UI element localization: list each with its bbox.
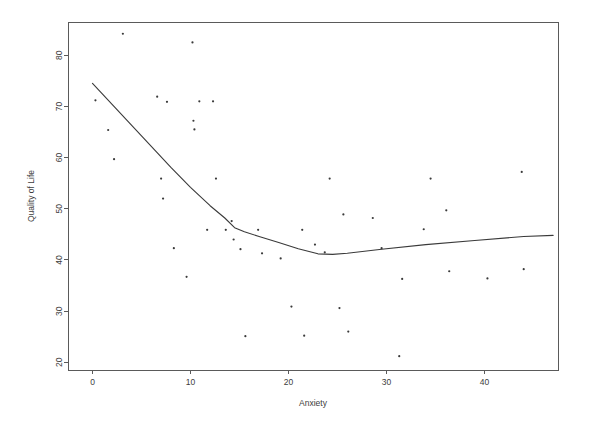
data-point (280, 257, 282, 259)
data-point (523, 268, 525, 270)
data-point (94, 99, 96, 101)
plot-background (0, 0, 589, 430)
data-point (233, 238, 235, 240)
data-point (257, 229, 259, 231)
data-point (329, 178, 331, 180)
chart-figure: 20304050607080 010203040 Anxiety Quality… (0, 0, 589, 430)
data-point (231, 220, 233, 222)
data-point (301, 229, 303, 231)
data-point (338, 307, 340, 309)
data-point (423, 228, 425, 230)
data-point (156, 96, 158, 98)
data-point (215, 178, 217, 180)
data-point (192, 120, 194, 122)
data-point (160, 178, 162, 180)
data-point (445, 209, 447, 211)
x-tick-label: 0 (90, 377, 95, 387)
data-point (244, 335, 246, 337)
data-point (290, 305, 292, 307)
data-point (314, 244, 316, 246)
data-point (225, 229, 227, 231)
data-point (191, 41, 193, 43)
y-tick-label: 80 (54, 50, 64, 60)
data-point (448, 270, 450, 272)
data-point (162, 197, 164, 199)
data-point (398, 355, 400, 357)
data-point (261, 252, 263, 254)
data-point (113, 158, 115, 160)
data-point (206, 229, 208, 231)
y-tick-label: 50 (54, 204, 64, 214)
y-axis-label: Quality of Life (26, 170, 36, 222)
x-tick-label: 10 (186, 377, 196, 387)
data-point (185, 276, 187, 278)
data-point (198, 100, 200, 102)
x-tick-label: 20 (284, 377, 294, 387)
data-point (107, 129, 109, 131)
data-point (372, 217, 374, 219)
data-point (303, 335, 305, 337)
y-tick-label: 40 (54, 255, 64, 265)
data-point (212, 100, 214, 102)
scatter-plot-svg: 20304050607080 010203040 Anxiety Quality… (0, 0, 589, 430)
data-point (166, 101, 168, 103)
data-point (239, 248, 241, 250)
data-point (401, 278, 403, 280)
data-point (430, 178, 432, 180)
data-point (521, 171, 523, 173)
data-point (486, 277, 488, 279)
data-point (381, 247, 383, 249)
data-point (193, 128, 195, 130)
x-axis-label: Anxiety (299, 398, 328, 408)
y-tick-label: 60 (54, 153, 64, 163)
x-tick-label: 40 (480, 377, 490, 387)
y-tick-label: 20 (54, 357, 64, 367)
data-point (324, 251, 326, 253)
data-point (173, 247, 175, 249)
y-tick-label: 70 (54, 101, 64, 111)
y-tick-label: 30 (54, 306, 64, 316)
x-tick-label: 30 (382, 377, 392, 387)
data-point (122, 33, 124, 35)
data-point (342, 213, 344, 215)
data-point (347, 331, 349, 333)
